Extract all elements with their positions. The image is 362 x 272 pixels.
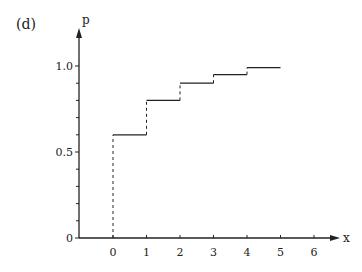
x-tick-label: 4	[244, 246, 251, 259]
x-axis-arrow-icon	[330, 235, 340, 241]
x-tick-label: 6	[311, 246, 318, 259]
x-axis-label: x	[343, 231, 350, 245]
x-tick-label: 5	[277, 246, 284, 259]
y-tick-label: 1.0	[56, 60, 74, 73]
y-tick-label: 0	[66, 232, 73, 245]
x-tick-label: 0	[110, 246, 117, 259]
y-axis-label: p	[82, 13, 90, 27]
y-tick-label: 0.5	[56, 146, 74, 159]
x-tick-label: 1	[143, 246, 150, 259]
step-chart: px012345600.51.0	[0, 0, 362, 272]
x-tick-label: 3	[210, 246, 217, 259]
y-axis-arrow-icon	[76, 28, 82, 38]
x-tick-label: 2	[177, 246, 184, 259]
